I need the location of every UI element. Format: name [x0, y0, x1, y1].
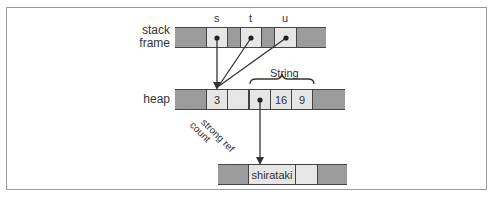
pointer-arrows — [217, 38, 314, 163]
dot-s-icon — [214, 35, 219, 40]
dot-u-icon — [283, 35, 288, 40]
dot-t-icon — [248, 35, 253, 40]
dot-heap-pointer-icon — [257, 97, 262, 102]
arrow-t-to-heap — [218, 38, 251, 87]
arrows-overlay — [0, 0, 492, 197]
string-brace-icon — [250, 74, 314, 84]
